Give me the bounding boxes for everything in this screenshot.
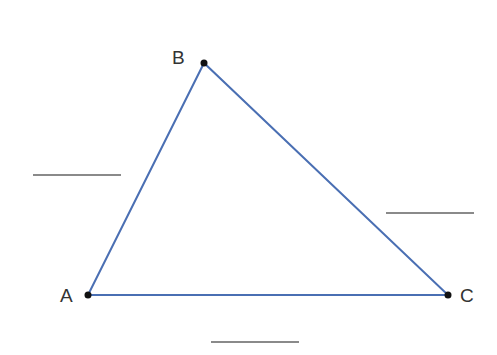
vertex-c-label: C <box>460 286 474 305</box>
blank-side-ac[interactable] <box>211 341 299 343</box>
vertex-b-label: B <box>172 48 185 67</box>
triangle-diagram <box>0 0 497 355</box>
triangle-abc <box>88 63 448 295</box>
blank-side-ab[interactable] <box>33 174 121 176</box>
vertex-c-dot <box>445 292 452 299</box>
vertex-b-dot <box>201 60 208 67</box>
blank-side-bc[interactable] <box>386 212 474 214</box>
vertex-a-dot <box>85 292 92 299</box>
vertex-a-label: A <box>60 286 73 305</box>
